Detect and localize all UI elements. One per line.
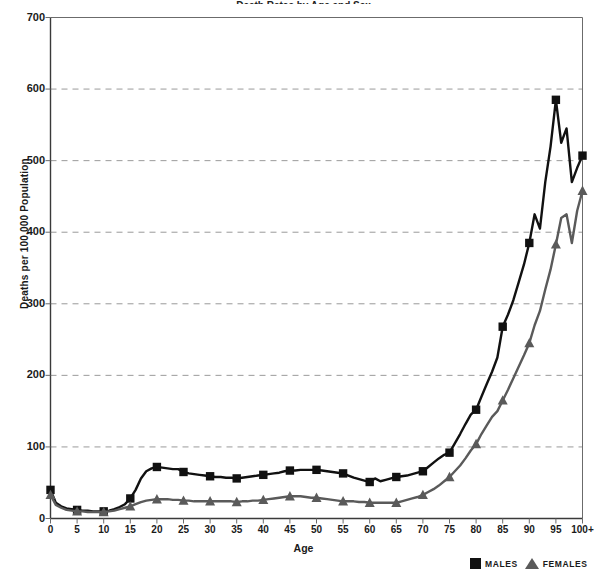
marker-males-55 xyxy=(339,469,347,477)
x-axis-label-30: 30 xyxy=(205,524,216,535)
marker-females-90 xyxy=(524,338,534,347)
x-axis-label-100+: 100+ xyxy=(571,524,594,535)
x-axis-label-5: 5 xyxy=(74,524,80,535)
marker-males-90 xyxy=(525,239,533,247)
x-axis-label-25: 25 xyxy=(178,524,189,535)
legend-item-males[interactable]: MALES xyxy=(470,558,518,569)
marker-males-100 xyxy=(578,151,586,159)
x-axis-label-60: 60 xyxy=(364,524,375,535)
plot-area xyxy=(0,0,607,580)
marker-females-70 xyxy=(418,490,428,499)
marker-males-75 xyxy=(445,448,453,456)
x-axis-label-85: 85 xyxy=(497,524,508,535)
marker-males-95 xyxy=(552,96,560,104)
marker-males-30 xyxy=(206,472,214,480)
marker-males-80 xyxy=(472,406,480,414)
chart-root: Death Rates by Age and Sex 0100200300400… xyxy=(0,0,607,580)
marker-females-85 xyxy=(498,395,508,404)
marker-females-95 xyxy=(551,239,561,248)
x-axis-label-15: 15 xyxy=(125,524,136,535)
marker-males-65 xyxy=(392,473,400,481)
x-axis-label-0: 0 xyxy=(48,524,54,535)
marker-males-20 xyxy=(153,463,161,471)
x-axis-label-90: 90 xyxy=(524,524,535,535)
x-axis-label-10: 10 xyxy=(98,524,109,535)
chart-legend: MALES FEMALES xyxy=(470,558,588,569)
marker-males-25 xyxy=(179,468,187,476)
x-axis-label-40: 40 xyxy=(258,524,269,535)
marker-males-40 xyxy=(259,471,267,479)
series-line-females xyxy=(51,191,583,512)
x-axis-label-70: 70 xyxy=(417,524,428,535)
square-marker-icon xyxy=(470,558,481,569)
marker-males-70 xyxy=(419,467,427,475)
marker-males-85 xyxy=(499,322,507,330)
x-axis-label-45: 45 xyxy=(284,524,295,535)
x-axis-label-95: 95 xyxy=(550,524,561,535)
marker-females-100 xyxy=(578,186,588,195)
series-line-males xyxy=(51,100,583,512)
triangle-marker-icon xyxy=(525,558,539,569)
legend-label-males: MALES xyxy=(485,559,518,569)
x-axis-label-20: 20 xyxy=(151,524,162,535)
x-axis-label-75: 75 xyxy=(444,524,455,535)
x-axis-label-55: 55 xyxy=(338,524,349,535)
marker-males-35 xyxy=(233,474,241,482)
marker-males-45 xyxy=(286,466,294,474)
marker-males-50 xyxy=(312,466,320,474)
x-axis-label-65: 65 xyxy=(391,524,402,535)
x-axis-label-35: 35 xyxy=(231,524,242,535)
legend-item-females[interactable]: FEMALES xyxy=(525,558,588,569)
marker-females-80 xyxy=(471,439,481,448)
x-axis-label-80: 80 xyxy=(471,524,482,535)
marker-males-60 xyxy=(366,478,374,486)
legend-label-females: FEMALES xyxy=(543,559,588,569)
x-axis-label-50: 50 xyxy=(311,524,322,535)
